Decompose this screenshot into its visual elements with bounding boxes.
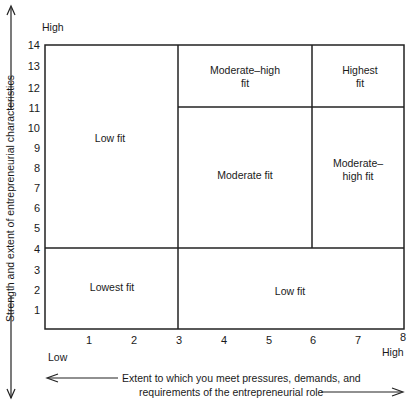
cell-highest-fit: Highest fit bbox=[320, 64, 400, 90]
x-axis-label-line1: Extent to which you meet pressures, dema… bbox=[122, 372, 361, 384]
x-tick: 4 bbox=[217, 335, 231, 346]
x-low-label: Low bbox=[48, 351, 67, 363]
x-axis-label-line2: requirements of the entrepreneurial role bbox=[139, 386, 323, 398]
cell-text: high fit bbox=[318, 170, 398, 183]
x-tick: 8 bbox=[396, 332, 410, 343]
cell-moderate-high-top: Moderate–high fit bbox=[195, 64, 295, 90]
x-tick: 5 bbox=[262, 335, 276, 346]
y-tick: 2 bbox=[26, 285, 40, 296]
y-tick: 10 bbox=[26, 123, 40, 134]
cell-text: Moderate– bbox=[318, 157, 398, 170]
y-tick: 13 bbox=[26, 61, 40, 72]
x-tick: 7 bbox=[351, 335, 365, 346]
cell-moderate-high-right: Moderate– high fit bbox=[318, 157, 398, 183]
cell-low-fit-upper-left: Low fit bbox=[70, 132, 150, 145]
y-tick: 1 bbox=[26, 305, 40, 316]
cell-text: Highest bbox=[320, 64, 400, 77]
x-tick: 3 bbox=[172, 335, 186, 346]
y-tick: 5 bbox=[26, 223, 40, 234]
y-tick: 11 bbox=[26, 103, 40, 114]
y-high-label: High bbox=[42, 21, 64, 33]
y-tick: 6 bbox=[26, 203, 40, 214]
x-tick: 6 bbox=[306, 335, 320, 346]
x-high-label: High bbox=[382, 346, 404, 358]
cell-lowest-fit: Lowest fit bbox=[72, 281, 152, 294]
y-tick: 12 bbox=[26, 83, 40, 94]
y-tick: 8 bbox=[26, 163, 40, 174]
cell-text: fit bbox=[195, 77, 295, 90]
cell-low-fit-bottom: Low fit bbox=[250, 285, 330, 298]
cell-text: fit bbox=[320, 77, 400, 90]
x-tick: 2 bbox=[127, 335, 141, 346]
y-tick: 3 bbox=[26, 265, 40, 276]
y-tick: 14 bbox=[26, 40, 40, 51]
y-tick: 9 bbox=[26, 143, 40, 154]
y-tick: 4 bbox=[26, 244, 40, 255]
cell-text: Moderate–high bbox=[195, 64, 295, 77]
x-tick: 1 bbox=[82, 335, 96, 346]
y-tick: 7 bbox=[26, 183, 40, 194]
y-axis-label: Strength and extent of entrepreneurial c… bbox=[4, 82, 16, 322]
cell-moderate-fit: Moderate fit bbox=[195, 169, 295, 182]
